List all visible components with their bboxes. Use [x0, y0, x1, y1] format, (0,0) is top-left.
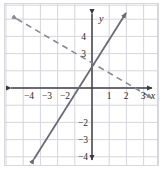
- coordinate-plane-figure: −2 −3 −4 1 2 3 4 3 −2 −3 −4 x y: [0, 0, 163, 169]
- x-axis-label: x: [150, 90, 156, 101]
- xtick-label-3: 3: [141, 91, 146, 101]
- y-axis-label: y: [98, 13, 104, 24]
- ytick-label-4: 4: [81, 32, 86, 42]
- xtick-label-neg2: −2: [60, 91, 70, 101]
- ytick-label-neg4: −4: [78, 152, 88, 162]
- xtick-label-neg3: −3: [42, 91, 52, 101]
- xtick-label-neg4: −4: [24, 91, 34, 101]
- xtick-label-2: 2: [124, 91, 129, 101]
- ytick-label-3: 3: [81, 49, 86, 59]
- ytick-label-neg2: −2: [78, 118, 88, 128]
- graph-canvas: −2 −3 −4 1 2 3 4 3 −2 −3 −4 x y: [0, 0, 163, 169]
- xtick-label-1: 1: [107, 91, 112, 101]
- ytick-label-neg3: −3: [78, 135, 88, 145]
